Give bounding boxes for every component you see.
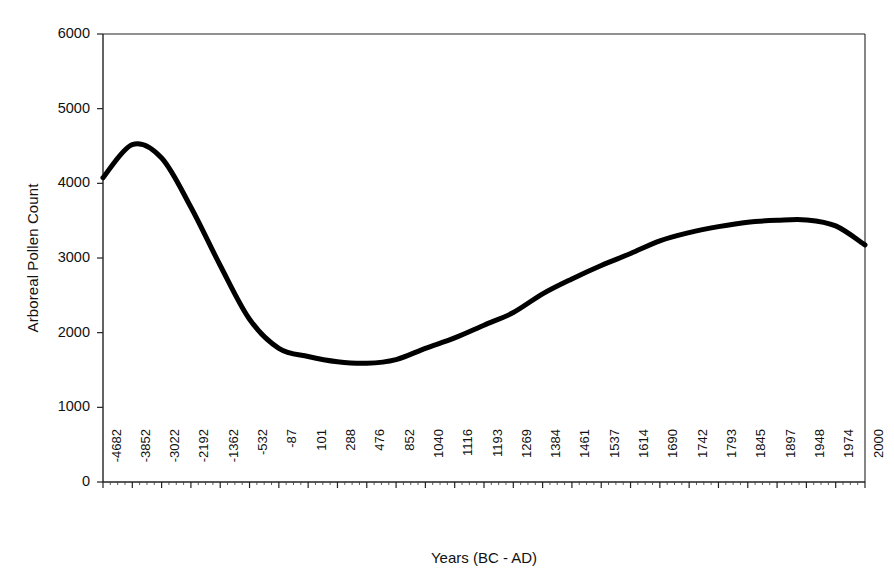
x-axis-tick-label: -3022	[168, 429, 181, 489]
x-axis-tick-label: 1614	[637, 429, 650, 489]
x-axis-tick-label: 1116	[461, 429, 474, 489]
x-axis-tick-label: -532	[256, 429, 269, 489]
x-axis-tick-label: 1384	[549, 429, 562, 489]
x-axis-tick-label: 1742	[696, 429, 709, 489]
x-axis-tick-label: 476	[373, 429, 386, 489]
x-axis-tick-label: 1690	[666, 429, 679, 489]
x-axis-tick-label: -87	[285, 429, 298, 489]
x-axis-tick-label: -4682	[110, 429, 123, 489]
x-axis-title: Years (BC - AD)	[103, 549, 865, 566]
x-axis-tick-label: 1845	[754, 429, 767, 489]
x-axis-tick-label: -3852	[139, 429, 152, 489]
x-axis-tick-label: 1537	[608, 429, 621, 489]
x-axis-tick-label: 1193	[491, 429, 504, 489]
x-axis-tick-labels: -4682-3852-3022-2192-1362-532-8710128847…	[0, 0, 894, 588]
pollen-count-line-chart: Arboreal Pollen Count 010002000300040005…	[0, 0, 894, 588]
x-axis-tick-label: -1362	[227, 429, 240, 489]
x-axis-tick-label: -2192	[197, 429, 210, 489]
x-axis-tick-label: 1040	[432, 429, 445, 489]
x-axis-tick-label: 288	[344, 429, 357, 489]
x-axis-tick-label: 1793	[725, 429, 738, 489]
x-axis-tick-label: 1269	[520, 429, 533, 489]
x-axis-tick-label: 1897	[784, 429, 797, 489]
x-axis-tick-label: 2000	[872, 429, 885, 489]
x-axis-tick-label: 1948	[813, 429, 826, 489]
x-axis-tick-label: 1461	[578, 429, 591, 489]
x-axis-tick-label: 101	[315, 429, 328, 489]
x-axis-tick-label: 1974	[842, 429, 855, 489]
x-axis-tick-label: 852	[403, 429, 416, 489]
